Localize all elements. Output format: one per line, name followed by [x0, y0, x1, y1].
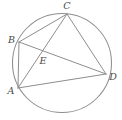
point-label-d: D	[108, 71, 117, 82]
circumscribed-circle	[13, 14, 112, 113]
segment-cd	[67, 14, 106, 74]
segment-ad	[18, 74, 106, 88]
segment-ab	[18, 42, 19, 88]
point-label-c: C	[63, 0, 71, 11]
point-label-b: B	[7, 34, 15, 45]
circle-diagram-canvas: A B C D E	[0, 0, 122, 120]
segment-bd	[19, 42, 106, 74]
segment-bc	[19, 14, 67, 42]
point-label-a: A	[7, 85, 15, 96]
point-label-e: E	[39, 55, 47, 66]
geometry-figure: A B C D E	[0, 0, 122, 120]
